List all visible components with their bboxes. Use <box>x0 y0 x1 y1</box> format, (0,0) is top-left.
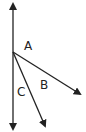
angle-diagram: A B C <box>0 0 86 132</box>
label-b: B <box>40 78 48 92</box>
label-c: C <box>17 85 25 99</box>
label-a: A <box>24 39 33 53</box>
